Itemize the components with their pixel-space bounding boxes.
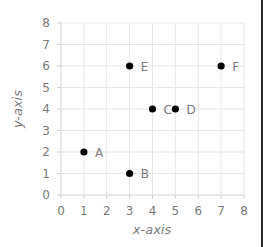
- x-tick-label: 6: [194, 204, 202, 218]
- x-tick-label: 4: [149, 204, 157, 218]
- y-tick-label: 2: [42, 145, 50, 159]
- data-label-f: F: [232, 60, 239, 74]
- y-tick-label: 0: [42, 188, 50, 202]
- x-tick-label: 0: [57, 204, 65, 218]
- data-point-f: [218, 62, 225, 69]
- x-tick-label: 8: [240, 204, 248, 218]
- data-label-d: D: [186, 103, 195, 117]
- scatter-chart: 012345678012345678 ABCDEF x-axis y-axis: [0, 0, 263, 247]
- data-point-a: [80, 148, 87, 155]
- tick-labels: 012345678012345678: [42, 16, 247, 218]
- x-axis-label: x-axis: [132, 222, 172, 237]
- chart-frame: 012345678012345678 ABCDEF x-axis y-axis: [0, 0, 263, 247]
- data-label-c: C: [164, 103, 172, 117]
- y-tick-label: 4: [42, 102, 50, 116]
- data-point-e: [126, 62, 133, 69]
- y-tick-label: 7: [42, 38, 50, 52]
- y-tick-label: 6: [42, 59, 50, 73]
- y-tick-label: 8: [42, 16, 50, 30]
- data-point-b: [126, 170, 133, 177]
- y-tick-label: 1: [42, 167, 50, 181]
- y-tick-label: 5: [42, 81, 50, 95]
- y-axis-label: y-axis: [10, 90, 25, 129]
- y-tick-label: 3: [42, 124, 50, 138]
- x-tick-label: 2: [103, 204, 111, 218]
- x-tick-label: 5: [172, 204, 180, 218]
- data-label-b: B: [141, 167, 149, 181]
- data-points: ABCDEF: [80, 60, 239, 182]
- x-tick-label: 3: [126, 204, 134, 218]
- window-edge: [261, 0, 263, 247]
- x-tick-label: 7: [217, 204, 225, 218]
- data-label-e: E: [141, 60, 149, 74]
- data-point-d: [172, 105, 179, 112]
- x-tick-label: 1: [80, 204, 88, 218]
- data-label-a: A: [95, 146, 104, 160]
- data-point-c: [149, 105, 156, 112]
